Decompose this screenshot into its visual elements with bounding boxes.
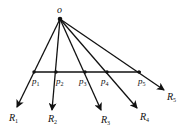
label-p3: p3 [78, 76, 87, 87]
label-r5: R5 [166, 91, 176, 103]
rays [17, 19, 164, 110]
point-p2 [54, 70, 57, 73]
label-r1: R1 [8, 112, 18, 124]
origin-label: o [57, 4, 62, 15]
point-p5 [137, 70, 140, 73]
point-p3 [83, 70, 86, 73]
label-p5: p5 [137, 76, 146, 87]
label-p2: p2 [55, 76, 64, 87]
ray-diagram: o p1 p2 p3 p4 p5 R1 R2 R3 R4 R5 [0, 0, 185, 136]
label-r2: R2 [47, 113, 57, 125]
label-p4: p4 [100, 76, 109, 87]
label-r3: R3 [100, 114, 110, 126]
origin-point [58, 17, 63, 22]
ray-labels: R1 R2 R3 R4 R5 [8, 91, 176, 126]
label-r4: R4 [139, 111, 149, 123]
point-p1 [32, 70, 35, 73]
point-p4 [105, 70, 108, 73]
label-p1: p1 [31, 76, 40, 87]
